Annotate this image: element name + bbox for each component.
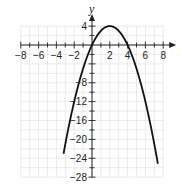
y-tick-label: 4: [81, 21, 87, 32]
y-axis-label: y: [88, 2, 95, 16]
x-axis-label: x: [180, 38, 181, 52]
x-tick-label: 6: [143, 50, 149, 61]
y-tick-label: −8: [76, 77, 88, 88]
x-tick-label: 2: [107, 50, 113, 61]
y-tick-label: −20: [70, 134, 87, 145]
x-tick-label: −6: [33, 50, 45, 61]
x-tick-label: 8: [160, 50, 166, 61]
y-tick-label: −28: [70, 172, 87, 183]
x-tick-label: −2: [68, 50, 80, 61]
parabola-chart: −8−6−4−224684−8−12−16−20−24−28xy: [0, 0, 181, 193]
x-axis-arrow-icon: [169, 42, 176, 48]
y-tick-label: −12: [70, 96, 87, 107]
y-tick-label: −24: [70, 153, 87, 164]
x-tick-label: −8: [15, 50, 27, 61]
axes: [21, 14, 176, 177]
x-tick-label: 4: [125, 50, 131, 61]
y-tick-label: −16: [70, 115, 87, 126]
x-tick-label: −4: [51, 50, 63, 61]
